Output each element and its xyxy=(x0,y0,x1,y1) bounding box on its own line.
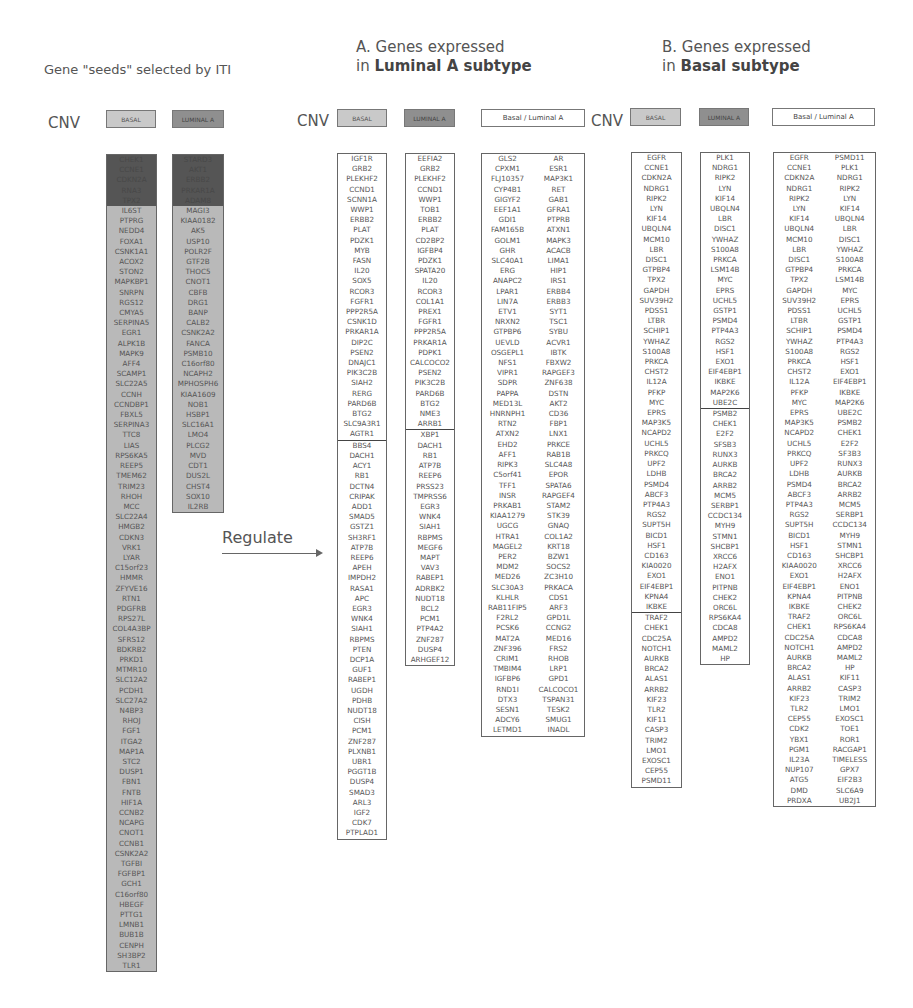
gene-label: MCC xyxy=(107,502,156,512)
section-b-cnv-label: CNV xyxy=(591,112,623,130)
gene-label: STC2 xyxy=(107,757,156,767)
gene-label: KIF14 xyxy=(701,194,749,204)
gene-label: UBQLN4 xyxy=(701,204,749,214)
gene-label: SOX5 xyxy=(338,276,386,286)
gene-label: GNAQ xyxy=(533,521,584,531)
gene-label: YWHAZ xyxy=(825,245,876,255)
section-b-luminal-tag: LUMINAL A xyxy=(699,108,749,126)
section-b-both-tag: Basal / Luminal A xyxy=(772,108,875,126)
gene-label: SLC4A8 xyxy=(533,460,584,470)
gene-label: KIAA0182 xyxy=(173,216,223,226)
gene-label: RAB11FIP5 xyxy=(482,603,533,613)
gene-label: ADAM8 xyxy=(173,196,223,206)
gene-label: RPS6KA4 xyxy=(701,613,749,623)
gene-label: SNRPN xyxy=(107,288,156,298)
gene-label: AMPD2 xyxy=(701,634,749,644)
gene-label: H2AFX xyxy=(701,562,749,572)
gene-label: PTP4A3 xyxy=(701,326,749,336)
seeds-cnv-label: CNV xyxy=(48,114,80,132)
gene-label: VAV3 xyxy=(406,563,454,573)
gene-label: HSF1 xyxy=(774,541,825,551)
gene-label: PDPK1 xyxy=(406,348,454,358)
gene-label: CHEK2 xyxy=(825,602,876,612)
gene-label: GOLM1 xyxy=(482,236,533,246)
gene-label: SESN1 xyxy=(482,705,533,715)
section-a-title: A. Genes expressed in Luminal A subtype xyxy=(356,38,532,76)
gene-label: RABEP1 xyxy=(406,573,454,583)
gene-label: DISC1 xyxy=(701,224,749,234)
gene-label: SMAD3 xyxy=(338,788,386,798)
gene-label: CD163 xyxy=(632,551,681,561)
gene-label: PSMD4 xyxy=(632,480,681,490)
gene-label: ARRB1 xyxy=(406,419,454,429)
gene-label: HP xyxy=(701,654,749,664)
gene-label: RPS6KA4 xyxy=(825,622,876,632)
gene-label: RET xyxy=(533,185,584,195)
gene-label: PSMD4 xyxy=(701,316,749,326)
gene-label: SFRS12 xyxy=(107,635,156,645)
gene-label: SIAH1 xyxy=(406,522,454,532)
gene-label: MCM10 xyxy=(774,235,825,245)
gene-label: NDRG1 xyxy=(701,163,749,173)
gene-label: LETMD1 xyxy=(482,725,533,735)
gene-label: PSMB2 xyxy=(701,409,749,419)
gene-label: RBPMS xyxy=(406,533,454,543)
gene-label: WNK4 xyxy=(406,512,454,522)
gene-label: PFKP xyxy=(774,388,825,398)
gene-label: TRAF2 xyxy=(774,612,825,622)
gene-label: MAP3K5 xyxy=(632,418,681,428)
gene-label: ALAS1 xyxy=(632,674,681,684)
gene-label: MYC xyxy=(774,398,825,408)
gene-label: ADRBK2 xyxy=(406,584,454,594)
gene-label: TOB1 xyxy=(406,205,454,215)
gene-label: CCNE1 xyxy=(774,163,825,173)
gene-label: SCHIP1 xyxy=(632,326,681,336)
gene-label: NDRG1 xyxy=(632,184,681,194)
gene-label: EPRS xyxy=(825,296,876,306)
gene-label: EEFIA2 xyxy=(406,154,454,164)
gene-label: RIPK2 xyxy=(701,173,749,183)
gene-label: EGFR xyxy=(632,153,681,163)
gene-label: SYBU xyxy=(533,327,584,337)
gene-label: CASP3 xyxy=(825,684,876,694)
gene-label: HP xyxy=(825,663,876,673)
gene-label: GTPBP4 xyxy=(632,265,681,275)
gene-label: CCDC134 xyxy=(701,511,749,521)
gene-label: RGS2 xyxy=(632,510,681,520)
gene-label: RERG xyxy=(338,389,386,399)
gene-label: MTMR10 xyxy=(107,665,156,675)
gene-label: EGR1 xyxy=(107,328,156,338)
gene-label: EXO1 xyxy=(825,367,876,377)
gene-label: NDRG1 xyxy=(774,184,825,194)
gene-label: TMEM62 xyxy=(107,471,156,481)
gene-label: LDHB xyxy=(632,469,681,479)
gene-label: SUPT5H xyxy=(774,520,825,530)
gene-label: DACH1 xyxy=(338,451,386,461)
gene-label: CNOT1 xyxy=(173,277,223,287)
gene-label: AKT2 xyxy=(533,399,584,409)
gene-label: IL20 xyxy=(338,266,386,276)
gene-label: LMO4 xyxy=(173,430,223,440)
gene-label: STARD3 xyxy=(173,155,223,165)
gene-label: SIAH1 xyxy=(338,624,386,634)
gene-label: BANP xyxy=(173,308,223,318)
gene-label: TTC8 xyxy=(107,430,156,440)
gene-label: F2RL2 xyxy=(482,613,533,623)
gene-label: DISC1 xyxy=(632,255,681,265)
gene-label: SERBP1 xyxy=(701,501,749,511)
gene-label: MCM5 xyxy=(701,491,749,501)
gene-label: FBXW2 xyxy=(533,358,584,368)
gene-label: CASP3 xyxy=(632,725,681,735)
gene-label: YWHAZ xyxy=(701,235,749,245)
section-b-title: B. Genes expressed in Basal subtype xyxy=(662,38,811,76)
gene-label: HMGB2 xyxy=(107,522,156,532)
gene-label: PITPNB xyxy=(825,592,876,602)
gene-label: FLJ10357 xyxy=(482,174,533,184)
gene-label: KRT18 xyxy=(533,542,584,552)
gene-label: BDKRB2 xyxy=(107,645,156,655)
gene-label: CHST2 xyxy=(632,367,681,377)
gene-label: DISC1 xyxy=(774,255,825,265)
gene-label: MYC xyxy=(825,286,876,296)
gene-label: SHCBP1 xyxy=(825,551,876,561)
gene-label: MYC xyxy=(632,398,681,408)
